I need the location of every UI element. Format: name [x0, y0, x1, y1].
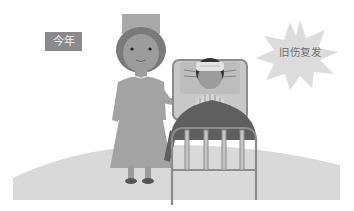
illustration-scene: 今年 旧伤复发 — [0, 0, 354, 211]
year-label: 今年 — [45, 32, 82, 51]
ground-shape — [13, 145, 340, 200]
burst-caption: 旧伤复发 — [270, 44, 330, 59]
